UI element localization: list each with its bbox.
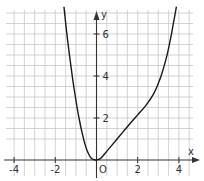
x-tick-label: 4	[176, 164, 182, 175]
y-axis-arrow-icon	[94, 11, 100, 20]
origin-label: O	[99, 164, 107, 175]
y-tick-label: 4	[103, 71, 109, 82]
x-axis-arrow-icon	[192, 157, 200, 163]
x-tick-label: -4	[9, 164, 19, 175]
y-axis-label: y	[101, 9, 107, 20]
x-tick-label: 2	[135, 164, 141, 175]
y-tick-label: 2	[103, 113, 109, 124]
x-tick-label: -2	[50, 164, 60, 175]
curve-f	[64, 7, 97, 160]
x-axis-label: x	[188, 146, 194, 157]
function-graph: x y O -4-224246	[0, 0, 204, 181]
grid	[6, 10, 193, 176]
curves	[64, 7, 176, 160]
y-tick-label: 6	[103, 29, 109, 40]
